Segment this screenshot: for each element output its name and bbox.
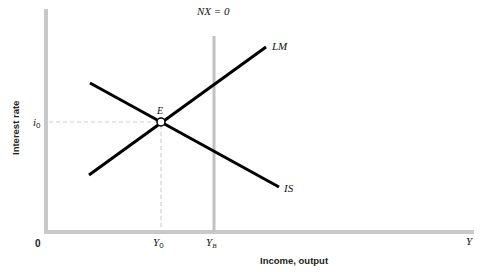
i0-label: i0	[33, 116, 41, 130]
equilibrium-point	[157, 118, 165, 126]
is-label: IS	[283, 182, 294, 194]
is-curve	[90, 83, 279, 187]
lm-curve	[89, 47, 266, 175]
origin-label: 0	[35, 238, 41, 249]
x-axis-title: Income, output	[260, 255, 329, 266]
x-axis-end-label: Y	[466, 235, 474, 247]
is-lm-diagram: NX = 0 LM IS E i0 Y0 YB 0 Y Income, outp…	[0, 0, 483, 272]
y-axis-title: Interest rate	[10, 101, 21, 155]
equilibrium-label: E	[156, 105, 163, 116]
nx-label: NX = 0	[196, 5, 230, 17]
lm-label: LM	[271, 40, 288, 52]
yb-label: YB	[206, 236, 217, 250]
y0-label: Y0	[153, 236, 164, 250]
